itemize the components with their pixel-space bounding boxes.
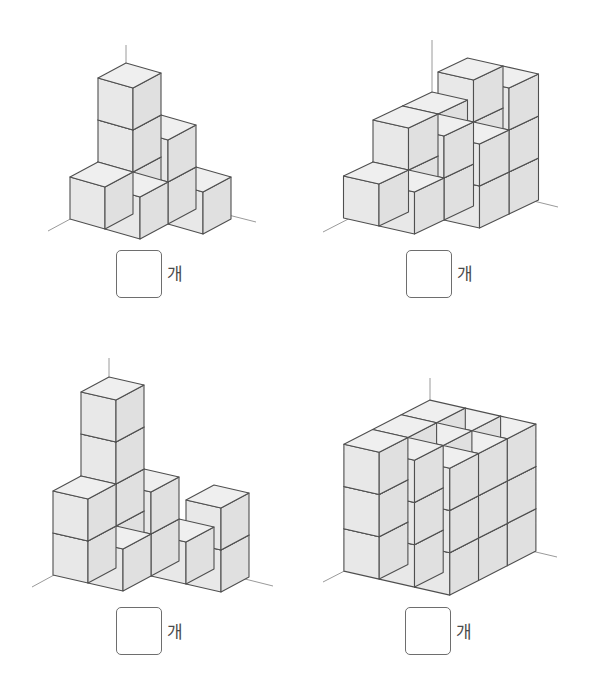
cube-side-face bbox=[479, 481, 508, 538]
cube-front-face bbox=[415, 545, 450, 595]
cube-side-face bbox=[408, 423, 437, 480]
cube-front-face bbox=[373, 514, 408, 564]
cube-side-face bbox=[379, 438, 408, 495]
cube-front-face bbox=[116, 484, 151, 534]
cube-side-face bbox=[409, 156, 439, 212]
cube-top-face bbox=[373, 457, 437, 480]
cube-front-face bbox=[379, 452, 414, 502]
cube-front-face bbox=[408, 438, 443, 488]
unit-label-2: 개 bbox=[457, 266, 473, 283]
cube-top-face bbox=[379, 522, 443, 545]
cube-front-face bbox=[438, 114, 474, 164]
cube-front-face bbox=[379, 184, 415, 234]
cube-top-face bbox=[474, 108, 539, 130]
cube-top-face bbox=[344, 514, 408, 537]
cube-side-face bbox=[221, 535, 249, 592]
cube-front-face bbox=[472, 431, 507, 481]
cube-side-face bbox=[116, 385, 144, 442]
cube-side-face bbox=[509, 116, 539, 172]
cube-front-face bbox=[81, 518, 116, 568]
cube-stack-figure-1 bbox=[0, 0, 589, 697]
cube-top-face bbox=[168, 167, 231, 192]
cube-front-face bbox=[53, 491, 88, 541]
cube-front-face bbox=[415, 503, 450, 553]
cube-front-face bbox=[81, 434, 116, 484]
cube-side-face bbox=[443, 515, 472, 572]
answer-box-1[interactable] bbox=[116, 250, 162, 298]
cube-front-face bbox=[443, 530, 478, 580]
cube-top-face bbox=[88, 526, 151, 549]
cube-side-face bbox=[116, 469, 144, 526]
cube-top-face bbox=[373, 499, 437, 522]
cube-top-face bbox=[151, 519, 214, 542]
cube-top-face bbox=[409, 156, 474, 178]
answer-input-2[interactable] bbox=[407, 251, 455, 299]
unit-label-1: 개 bbox=[167, 266, 183, 283]
cube-front-face bbox=[403, 148, 439, 198]
cube-top-face bbox=[415, 446, 479, 469]
cube-front-face bbox=[474, 122, 510, 172]
cube-side-face bbox=[443, 473, 472, 530]
cube-side-face bbox=[472, 501, 501, 558]
cube-side-face bbox=[509, 158, 539, 214]
cube-front-face bbox=[437, 423, 472, 473]
cube-side-face bbox=[437, 408, 466, 465]
cube-side-face bbox=[415, 530, 444, 587]
cube-top-face bbox=[186, 527, 249, 550]
cube-side-face bbox=[116, 511, 144, 568]
cube-top-face bbox=[53, 518, 116, 541]
cube-front-face bbox=[98, 162, 133, 214]
answer-input-1[interactable] bbox=[117, 251, 165, 299]
cube-side-face bbox=[88, 526, 116, 583]
cube-side-face bbox=[168, 167, 196, 224]
cube-side-face bbox=[443, 431, 472, 488]
cube-side-face bbox=[437, 493, 466, 550]
cube-side-face bbox=[474, 66, 504, 122]
cube-front-face bbox=[401, 499, 436, 549]
cube-side-face bbox=[438, 142, 468, 198]
cube-stack-figure-3 bbox=[0, 0, 589, 697]
cube-side-face bbox=[507, 509, 536, 566]
cube-side-face bbox=[450, 496, 479, 553]
cube-top-face bbox=[472, 501, 536, 524]
cube-front-face bbox=[409, 128, 445, 178]
cube-top-face bbox=[373, 415, 437, 438]
cube-top-face bbox=[409, 114, 474, 136]
cube-top-face bbox=[408, 423, 472, 446]
answer-input-4[interactable] bbox=[406, 608, 454, 656]
cube-top-face bbox=[443, 515, 507, 538]
cube-top-face bbox=[437, 450, 501, 473]
cube-front-face bbox=[88, 541, 123, 591]
cube-top-face bbox=[379, 480, 443, 503]
right-axis-line bbox=[432, 176, 558, 207]
cube-side-face bbox=[415, 178, 445, 234]
cube-top-face bbox=[408, 465, 472, 488]
cube-top-face bbox=[403, 134, 468, 156]
cube-front-face bbox=[472, 515, 507, 565]
cube-side-face bbox=[507, 466, 536, 523]
answer-input-3[interactable] bbox=[117, 608, 165, 656]
cube-side-face bbox=[379, 522, 408, 579]
cube-side-face bbox=[509, 74, 539, 130]
cube-front-face bbox=[474, 164, 510, 214]
cube-side-face bbox=[123, 534, 151, 591]
cube-side-face bbox=[408, 465, 437, 522]
cube-side-face bbox=[479, 523, 508, 580]
cube-front-face bbox=[344, 487, 379, 537]
cube-top-face bbox=[105, 172, 168, 197]
cube-side-face bbox=[437, 450, 466, 507]
cube-side-face bbox=[472, 416, 501, 473]
answer-box-3[interactable] bbox=[116, 607, 162, 655]
cube-front-face bbox=[98, 120, 133, 172]
cube-side-face bbox=[450, 454, 479, 511]
cube-side-face bbox=[444, 122, 474, 178]
cube-side-face bbox=[438, 100, 468, 156]
cube-side-face bbox=[88, 484, 116, 541]
right-axis-line bbox=[430, 527, 557, 557]
cube-top-face bbox=[133, 157, 196, 182]
answer-box-2[interactable] bbox=[406, 250, 452, 298]
cube-top-face bbox=[403, 92, 468, 114]
answer-box-4[interactable] bbox=[405, 607, 451, 655]
cube-front-face bbox=[474, 80, 510, 130]
cube-front-face bbox=[373, 162, 409, 212]
